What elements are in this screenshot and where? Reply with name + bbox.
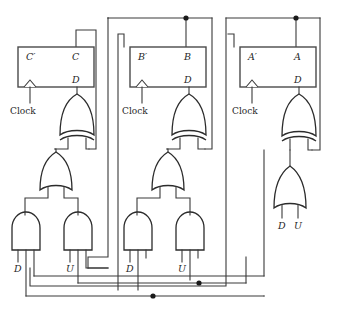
xor-gate-b (172, 94, 206, 140)
xor-gate-c (60, 94, 94, 140)
flipflop-b-q-label: B (183, 51, 191, 62)
and-gate-c-down (12, 212, 40, 250)
flipflop-c-q-label: C (72, 51, 80, 62)
wire-b-prime-feedback (118, 34, 124, 290)
wire-orb-in-left (137, 187, 160, 212)
and-gate-c-up (64, 212, 92, 250)
flipflop-b-clock-label: Clock (122, 106, 148, 116)
junction-dot-a-top (293, 15, 298, 20)
flipflop-a-qbar-label: A′ (247, 51, 258, 62)
or-gate-c (40, 152, 72, 190)
flipflop-c-qbar-label: C′ (26, 51, 36, 62)
flipflop-a-d-label: D (293, 74, 302, 85)
wire-andcu-in3 (86, 250, 108, 268)
wire-orb-out (167, 149, 168, 152)
junction-dot-bottom-right (196, 280, 201, 285)
flipflop-c-clock-label: Clock (10, 106, 36, 116)
junction-dot-b-top (183, 15, 188, 20)
or-gate-a (274, 166, 306, 208)
circuit-diagram: C′ C D Clock D U B′ B D Clock (0, 0, 337, 315)
flipflop-a-q-label: A (293, 51, 301, 62)
input-label-d-c: D (13, 263, 22, 274)
wire-orc-in-right (64, 187, 78, 212)
wire-orc-in-left (25, 187, 48, 212)
wire-orb-in-right (176, 187, 190, 212)
flipflop-b-d-label: D (183, 74, 192, 85)
flipflop-b-qbar-label: B′ (137, 51, 148, 62)
and-gate-b-down (124, 212, 152, 250)
or-gate-b (152, 152, 184, 190)
input-label-d-b: D (125, 263, 134, 274)
wire-orc-out (55, 149, 56, 152)
flipflop-c-d-label: D (71, 74, 80, 85)
input-label-u-a: U (294, 220, 303, 231)
junction-dot-bottom-mid (150, 293, 155, 298)
input-label-u-c: U (66, 263, 75, 274)
input-label-u-b: U (178, 263, 187, 274)
input-label-d-a: D (277, 220, 286, 231)
wire-a-prime-feedback (228, 34, 234, 47)
logic-diagram-canvas: C′ C D Clock D U B′ B D Clock (0, 0, 337, 315)
flipflop-a-clock-label: Clock (232, 106, 258, 116)
xor-gate-a (282, 94, 316, 141)
and-gate-b-up (176, 212, 204, 250)
